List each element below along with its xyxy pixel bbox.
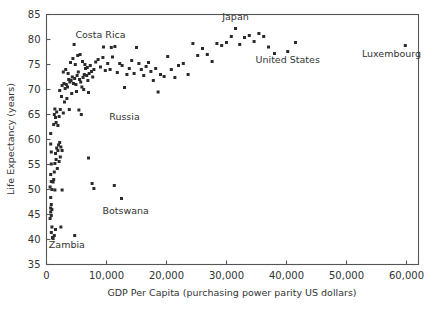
data-point [55,158,58,161]
data-point [86,79,89,82]
y-axis-title: Life Expectancy (years) [5,83,16,195]
data-point [50,226,53,229]
data-point [121,64,124,67]
data-point [196,54,199,57]
data-point [67,72,70,75]
data-point [152,79,155,82]
y-tick-label: 85 [28,9,41,20]
data-point [50,203,53,206]
y-tick-label: 55 [28,159,41,170]
data-point [177,64,180,67]
data-point [187,73,190,76]
data-point [69,61,72,64]
data-point [191,42,194,45]
data-point [92,68,95,71]
data-point [128,67,131,70]
y-tick-label: 70 [28,84,41,95]
data-point [157,91,160,94]
data-point [238,43,241,46]
data-point [225,41,228,44]
y-tick-label: 60 [28,134,41,145]
x-tick-label: 30,000 [209,270,244,281]
data-point [77,71,80,74]
data-point [182,62,185,65]
data-point [77,109,80,112]
data-point [55,121,58,124]
data-point [142,74,145,77]
data-point [111,56,114,59]
data-point [54,152,57,155]
data-point [104,69,107,72]
data-point [52,178,55,181]
data-point [102,46,105,49]
data-point [63,101,66,104]
data-point [173,76,176,79]
data-point [89,64,92,67]
data-point [130,59,133,62]
data-point [80,113,83,116]
data-point [91,76,94,79]
x-tick-label: 10,000 [89,270,124,281]
data-point [49,132,52,135]
data-point [262,35,265,38]
data-point [66,86,69,89]
data-point [91,182,94,185]
data-point [113,45,116,48]
data-point [59,156,62,159]
data-point [61,149,64,152]
data-point [73,43,76,46]
data-point [62,112,65,115]
data-point [75,90,78,93]
scatter-plot-figure: 3540455055606570758085010,00020,00030,00… [0,0,440,310]
point-annotation: Costa Rica [75,29,125,40]
y-tick-label: 35 [28,259,41,270]
data-point [86,66,89,69]
data-point [201,47,204,50]
data-point [79,53,82,56]
data-point [159,73,162,76]
data-point [61,189,64,192]
data-point [53,162,56,165]
data-point [73,77,76,80]
data-point [286,50,289,53]
data-point [82,88,85,91]
data-point [97,58,100,61]
data-point [92,187,95,190]
point-annotation: United States [256,54,320,65]
data-point [62,71,65,74]
data-point [70,79,73,82]
data-point [106,62,109,65]
data-point [125,73,128,76]
x-tick-label: 0 [43,270,49,281]
data-point [71,57,74,60]
data-point [170,68,173,71]
data-point [83,63,86,66]
data-point [54,116,57,119]
x-tick-label: 50,000 [329,270,364,281]
data-point [110,46,113,49]
data-point [55,111,58,114]
data-point [147,61,150,64]
data-point [87,157,90,160]
data-point [211,60,214,63]
point-annotation: Zambia [49,239,85,250]
data-point [243,36,246,39]
data-point [58,141,61,144]
data-point [120,197,123,200]
data-point [56,149,59,152]
x-axis-title: GDP Per Capita (purchasing power parity … [107,287,356,298]
y-tick-label: 45 [28,209,41,220]
point-annotation: Russia [109,111,140,122]
data-point [123,86,126,89]
data-point [220,44,223,47]
data-point [257,32,260,35]
x-tick-label: 20,000 [149,270,184,281]
data-point [49,211,52,214]
data-point [58,89,61,92]
data-point [74,83,77,86]
data-point [53,108,56,111]
y-tick-label: 40 [28,234,41,245]
data-point [234,27,237,30]
y-tick-label: 50 [28,184,41,195]
data-point [74,63,77,66]
